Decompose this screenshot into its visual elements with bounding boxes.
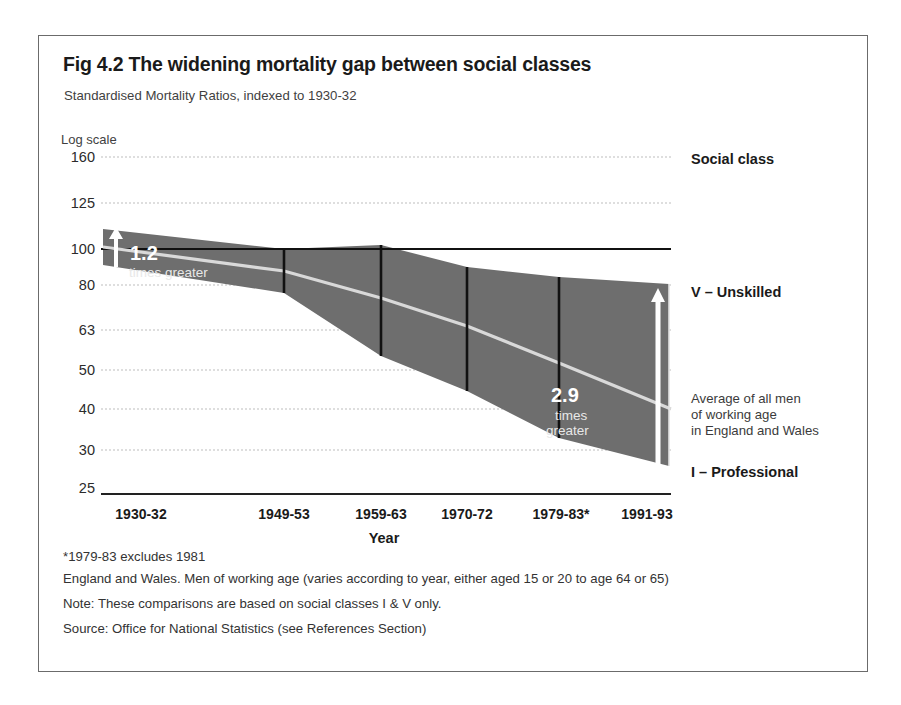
ratio-callout-left-text: times greater [129,265,208,280]
x-tick-label-1949-53: 1949-53 [258,506,309,522]
legend-label-class-v: V – Unskilled [691,284,781,300]
ratio-callout-right-text-2: greater [546,423,589,438]
footnote-coverage: England and Wales. Men of working age (v… [63,570,763,587]
legend-label-class-i: I – Professional [691,464,798,480]
legend-note-average-line-1: Average of all men [691,391,801,408]
ratio-callout-right-text-1: times [555,408,587,423]
x-tick-label-1979-83: 1979-83* [533,506,590,522]
figure-frame: Fig 4.2 The widening mortality gap betwe… [38,35,868,672]
ratio-callout-left-value: 1.2 [130,242,158,265]
legend-note-average-line-2: of working age [691,407,777,424]
ratio-callout-right-value: 2.9 [551,384,579,407]
footnote-asterisk: *1979-83 excludes 1981 [63,548,763,565]
footnote-note: Note: These comparisons are based on soc… [63,595,763,612]
x-tick-label-1930-32: 1930-32 [115,506,166,522]
x-axis-title: Year [369,530,400,546]
footnote-source: Source: Office for National Statistics (… [63,620,763,637]
legend-header-social-class: Social class [691,151,774,167]
legend-note-average-line-3: in England and Wales [691,423,819,440]
x-tick-label-1991-93: 1991-93 [621,506,672,522]
footnotes-block: *1979-83 excludes 1981 England and Wales… [63,548,763,645]
x-tick-label-1970-72: 1970-72 [441,506,492,522]
x-tick-label-1959-63: 1959-63 [355,506,406,522]
